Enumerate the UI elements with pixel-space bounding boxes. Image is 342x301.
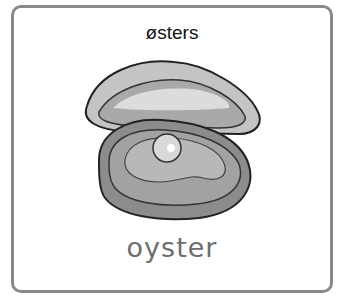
oyster-icon <box>69 50 279 230</box>
card-title: østers <box>14 22 330 44</box>
flashcard: østers oyster <box>11 5 333 293</box>
card-word: oyster <box>14 232 330 263</box>
